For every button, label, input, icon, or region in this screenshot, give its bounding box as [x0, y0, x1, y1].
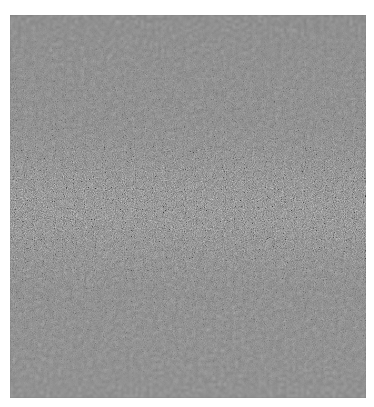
textured-surface-photo — [10, 15, 366, 398]
